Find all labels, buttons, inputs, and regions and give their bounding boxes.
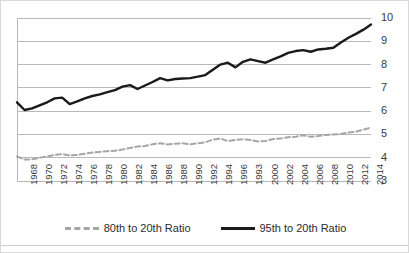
x-tick-label: 1984	[149, 164, 159, 185]
x-tick-label: 2006	[315, 164, 325, 185]
y-tick-label: 4	[381, 152, 403, 163]
x-tick-label: 1996	[239, 164, 249, 185]
y-tick-label: 7	[381, 82, 403, 93]
series-line-80th-to-20th	[17, 127, 371, 159]
x-tick-label: 1993	[254, 164, 264, 185]
bottom-divider	[1, 245, 409, 246]
legend-item-95th-to-20th[interactable]: 95th to 20th Ratio	[221, 222, 347, 234]
y-tick-label: 10	[381, 12, 403, 23]
plot-area: 345678910 196819701972197419761978198019…	[1, 1, 409, 211]
x-tick-label: 1968	[29, 164, 39, 185]
x-tick-label: 1982	[134, 164, 144, 185]
x-tick-label: 2000	[270, 164, 280, 185]
x-tick-label: 1972	[59, 164, 69, 185]
legend-item-80th-to-20th[interactable]: 80th to 20th Ratio	[65, 222, 191, 234]
x-tick-label: 2004	[300, 164, 310, 185]
x-tick-label: 1980	[119, 164, 129, 185]
legend-swatch-solid-icon	[221, 227, 255, 230]
x-tick-label: 2010	[345, 164, 355, 185]
x-tick-label: 2008	[330, 164, 340, 185]
legend-label-80th-to-20th: 80th to 20th Ratio	[104, 222, 191, 234]
y-tick-label: 6	[381, 105, 403, 116]
legend-label-95th-to-20th: 95th to 20th Ratio	[260, 222, 347, 234]
series-group	[17, 25, 371, 160]
y-tick-label: 8	[381, 59, 403, 70]
series-line-95th-to-20th	[17, 25, 371, 110]
x-tick-label: 2002	[285, 164, 295, 185]
x-tick-label: 2012	[360, 164, 370, 185]
gridlines-group	[17, 18, 371, 181]
x-tick-label: 1974	[74, 164, 84, 185]
chart-legend: 80th to 20th Ratio 95th to 20th Ratio	[1, 215, 409, 241]
x-tick-label: 1978	[104, 164, 114, 185]
x-tick-label: 1990	[194, 164, 204, 185]
x-tick-label: 1994	[224, 164, 234, 185]
chart-container: 345678910 196819701972197419761978198019…	[0, 0, 409, 253]
x-tick-label: 2014	[375, 164, 385, 185]
x-tick-label: 1992	[209, 164, 219, 185]
x-tick-label: 1988	[179, 164, 189, 185]
y-tick-label: 5	[381, 128, 403, 139]
x-tick-label: 1976	[89, 164, 99, 185]
y-tick-label: 9	[381, 35, 403, 46]
legend-swatch-dashed-icon	[65, 227, 99, 230]
x-tick-label: 1986	[164, 164, 174, 185]
x-tick-label: 1970	[44, 164, 54, 185]
